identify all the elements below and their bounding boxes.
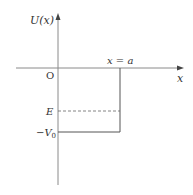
- well-depth-subscript: 0: [52, 132, 56, 140]
- x-axis-arrow-icon: [177, 66, 184, 71]
- x-axis-label: x: [177, 72, 184, 85]
- well-depth-label: −V0: [36, 127, 56, 140]
- energy-label: E: [45, 106, 54, 117]
- y-axis-arrow-icon: [56, 13, 61, 20]
- wall-position-label: x = a: [107, 55, 133, 66]
- origin-label: O: [46, 70, 54, 81]
- y-axis-label: U(x): [30, 14, 54, 27]
- potential-well-diagram: U(x) x O x = a E −V0: [0, 0, 193, 195]
